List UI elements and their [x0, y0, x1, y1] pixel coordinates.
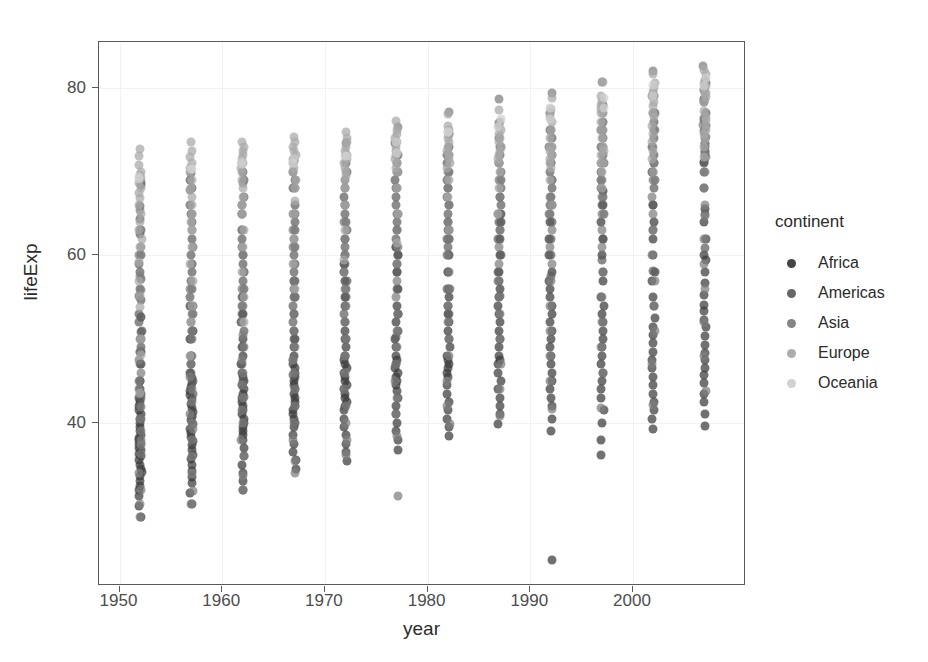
- data-point: [238, 209, 247, 218]
- data-point: [598, 255, 607, 264]
- data-point: [701, 212, 710, 221]
- data-point: [186, 410, 195, 419]
- data-point: [136, 368, 145, 377]
- data-point: [648, 339, 657, 348]
- data-point: [445, 351, 454, 360]
- data-point: [237, 356, 246, 365]
- data-point: [392, 293, 401, 302]
- data-point: [188, 452, 197, 461]
- data-point: [547, 259, 556, 268]
- data-point: [394, 209, 403, 218]
- data-point: [547, 125, 556, 134]
- legend-item-oceania[interactable]: Oceania: [787, 368, 920, 398]
- data-point: [393, 432, 402, 441]
- data-point: [700, 410, 709, 419]
- data-point: [598, 134, 607, 143]
- data-point: [495, 318, 504, 327]
- data-point: [188, 276, 197, 285]
- data-point: [545, 243, 554, 252]
- data-point: [341, 234, 350, 243]
- data-point: [340, 255, 349, 264]
- data-point: [648, 389, 657, 398]
- data-point: [289, 259, 298, 268]
- data-point: [291, 176, 300, 185]
- data-point: [393, 276, 402, 285]
- data-point: [495, 293, 504, 302]
- data-point: [289, 310, 298, 319]
- data-point: [187, 499, 196, 508]
- data-point: [188, 165, 197, 174]
- data-point: [596, 125, 605, 134]
- data-point: [137, 234, 146, 243]
- legend-item-asia[interactable]: Asia: [787, 308, 920, 338]
- data-point: [700, 364, 709, 373]
- data-point: [188, 397, 197, 406]
- data-point: [548, 404, 557, 413]
- data-point: [187, 226, 196, 235]
- data-point: [188, 146, 197, 155]
- y-axis-title-container: lifeExp: [18, 0, 44, 544]
- data-point: [340, 151, 349, 160]
- x-axis-tick-mark: [632, 586, 633, 592]
- data-point: [188, 435, 197, 444]
- data-point: [289, 234, 298, 243]
- plot-panel: [98, 41, 745, 585]
- data-point: [238, 393, 247, 402]
- data-point: [391, 376, 400, 385]
- data-point: [547, 427, 556, 436]
- data-point: [186, 317, 195, 326]
- legend-item-label: Oceania: [818, 374, 878, 392]
- data-point: [699, 318, 708, 327]
- x-axis-tick-label: 1970: [305, 592, 343, 609]
- data-point: [597, 343, 606, 352]
- data-point: [546, 301, 555, 310]
- data-point: [394, 445, 403, 454]
- data-point: [495, 243, 504, 252]
- data-point: [186, 351, 195, 360]
- data-point: [700, 167, 709, 176]
- data-point: [648, 267, 657, 276]
- legend-key-dot-icon: [787, 349, 796, 358]
- data-point: [649, 91, 658, 100]
- data-point: [444, 318, 453, 327]
- data-point: [342, 301, 351, 310]
- data-point: [290, 418, 299, 427]
- data-point: [135, 291, 144, 300]
- data-point: [546, 176, 555, 185]
- data-point: [393, 125, 402, 134]
- legend-item-americas[interactable]: Americas: [787, 278, 920, 308]
- data-point: [496, 310, 505, 319]
- data-point: [496, 412, 505, 421]
- data-point: [340, 351, 349, 360]
- legend-item-label: Americas: [818, 284, 885, 302]
- data-point: [291, 457, 300, 466]
- data-point: [597, 451, 606, 460]
- data-point: [599, 368, 608, 377]
- data-point: [546, 326, 555, 335]
- data-point: [598, 184, 607, 193]
- legend-item-europe[interactable]: Europe: [787, 338, 920, 368]
- legend-title: continent: [775, 212, 920, 232]
- data-point: [136, 427, 145, 436]
- data-point: [238, 381, 247, 390]
- data-point: [649, 176, 658, 185]
- data-point: [239, 317, 248, 326]
- legend-item-africa[interactable]: Africa: [787, 248, 920, 278]
- data-point: [599, 268, 608, 277]
- x-axis-tick-label: 1960: [202, 592, 240, 609]
- data-point: [135, 145, 144, 154]
- data-point: [188, 326, 197, 335]
- data-point: [392, 418, 401, 427]
- data-point: [649, 347, 658, 356]
- data-point: [597, 418, 606, 427]
- data-point: [187, 385, 196, 394]
- data-point: [649, 301, 658, 310]
- data-point: [699, 300, 708, 309]
- data-point: [598, 192, 607, 201]
- y-axis-tick-label: 40: [52, 413, 86, 430]
- legend-item-label: Asia: [818, 314, 849, 332]
- data-point: [187, 201, 196, 210]
- data-point: [547, 393, 556, 402]
- x-axis-tick-label: 1980: [408, 592, 446, 609]
- data-point: [186, 360, 195, 369]
